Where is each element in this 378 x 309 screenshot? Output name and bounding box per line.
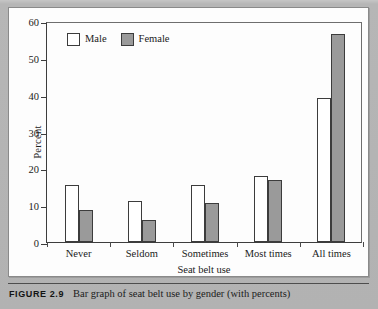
figure-caption-label: FIGURE 2.9: [9, 289, 64, 299]
figure-block: Percent Seat belt use 0102030405060Never…: [0, 0, 378, 309]
chart-panel: Percent Seat belt use 0102030405060Never…: [8, 7, 369, 277]
x-axis-tick: [300, 242, 301, 247]
x-axis-tick: [237, 242, 238, 247]
y-axis-tick: [41, 23, 47, 24]
bar-male-sometimes: [191, 185, 205, 242]
bar-male-most-times: [254, 176, 268, 242]
bar-female-seldom: [142, 220, 156, 242]
x-axis-tick: [47, 242, 48, 247]
x-axis-tick: [363, 242, 364, 247]
gray-square-icon: [121, 33, 134, 46]
y-axis-tick-label: 20: [29, 165, 40, 176]
bar-male-all-times: [317, 98, 331, 242]
x-axis-title: Seat belt use: [177, 264, 230, 275]
x-axis-label-sometimes: Sometimes: [182, 249, 229, 260]
y-axis-tick-label: 10: [29, 202, 40, 213]
y-axis-tick-label: 50: [29, 55, 40, 66]
legend-entry-male: Male: [67, 33, 107, 46]
y-axis-tick-label: 60: [29, 18, 40, 29]
y-axis-tick: [41, 170, 47, 171]
bar-male-seldom: [128, 201, 142, 242]
legend-entry-female: Female: [121, 33, 170, 46]
legend-label-male: Male: [85, 34, 107, 45]
x-axis-label-most-times: Most times: [245, 249, 292, 260]
bar-male-never: [65, 185, 79, 242]
bar-female-sometimes: [205, 203, 219, 242]
y-axis-tick-label: 30: [29, 128, 40, 139]
y-axis-tick-label: 0: [34, 239, 39, 250]
x-axis-label-all-times: All times: [312, 249, 351, 260]
x-axis-tick: [110, 242, 111, 247]
legend-label-female: Female: [139, 34, 170, 45]
bar-female-most-times: [268, 180, 282, 242]
x-axis-label-never: Never: [66, 249, 92, 260]
bar-female-never: [79, 210, 93, 242]
x-axis-tick: [173, 242, 174, 247]
plot-area: Seat belt use 0102030405060NeverSeldomSo…: [46, 22, 362, 243]
y-axis-tick: [41, 207, 47, 208]
caption-divider: [8, 283, 369, 284]
y-axis-tick: [41, 60, 47, 61]
figure-caption-text: Bar graph of seat belt use by gender (wi…: [73, 288, 290, 299]
x-axis-label-seldom: Seldom: [126, 249, 158, 260]
figure-caption: FIGURE 2.9 Bar graph of seat belt use by…: [9, 288, 369, 299]
chart-legend: MaleFemale: [67, 33, 169, 46]
y-axis-tick-label: 40: [29, 91, 40, 102]
y-axis-tick: [41, 97, 47, 98]
bar-female-all-times: [331, 34, 345, 242]
white-square-icon: [67, 33, 80, 46]
y-axis-tick: [41, 134, 47, 135]
